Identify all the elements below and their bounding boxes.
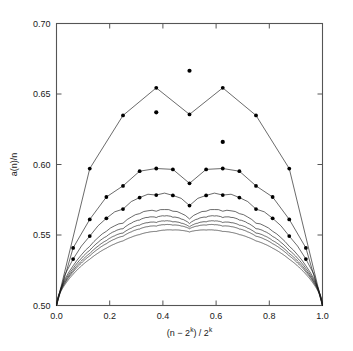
data-point <box>221 86 225 90</box>
data-point <box>287 217 291 221</box>
data-point <box>104 216 108 220</box>
data-point-right-secondary-peak <box>221 140 225 144</box>
y-tick-label: 0.60 <box>33 160 51 170</box>
data-point <box>287 234 291 238</box>
data-point <box>171 194 175 198</box>
data-point-global-maximum <box>187 69 191 73</box>
data-point <box>188 113 192 117</box>
data-point <box>71 257 75 261</box>
x-tick-label: 0.6 <box>210 311 223 321</box>
data-point <box>88 234 92 238</box>
chart-background <box>0 0 353 351</box>
chart-root: 0.00.20.40.60.81.00.500.550.600.650.70 (… <box>0 0 353 351</box>
x-tick-label: 0.2 <box>103 311 116 321</box>
data-point <box>138 196 142 200</box>
y-axis-title: a(n)/n <box>9 153 19 177</box>
x-tick-label: 0.8 <box>263 311 276 321</box>
data-point <box>88 217 92 221</box>
data-point <box>171 167 175 171</box>
data-point <box>104 195 108 199</box>
data-point <box>237 169 241 173</box>
data-point <box>254 184 258 188</box>
data-point <box>121 114 125 118</box>
data-point <box>221 193 225 197</box>
fractal-line-chart: 0.00.20.40.60.81.00.500.550.600.650.70 (… <box>0 0 353 351</box>
x-tick-label: 1.0 <box>316 311 329 321</box>
data-point <box>254 114 258 118</box>
data-point <box>88 167 92 171</box>
x-tick-label: 0.4 <box>157 311 170 321</box>
data-point <box>188 204 192 208</box>
data-point <box>271 195 275 199</box>
data-point <box>304 246 308 250</box>
data-point <box>271 216 275 220</box>
y-tick-label: 0.55 <box>33 230 51 240</box>
data-point <box>204 167 208 171</box>
data-point <box>121 184 125 188</box>
data-point <box>188 181 192 185</box>
data-point <box>287 167 291 171</box>
data-point-left-secondary-peak <box>154 110 158 114</box>
data-point <box>121 207 125 211</box>
data-point <box>254 207 258 211</box>
y-tick-label: 0.70 <box>33 19 51 29</box>
y-tick-label: 0.65 <box>33 89 51 99</box>
data-point <box>71 246 75 250</box>
x-tick-label: 0.0 <box>50 311 63 321</box>
data-point <box>154 193 158 197</box>
data-point <box>154 167 158 171</box>
data-point <box>138 169 142 173</box>
data-point <box>154 86 158 90</box>
data-point <box>237 196 241 200</box>
x-axis-title: (n − 2k) / 2k <box>167 326 213 337</box>
data-point <box>304 257 308 261</box>
data-point <box>204 194 208 198</box>
data-point <box>221 167 225 171</box>
y-tick-label: 0.50 <box>33 301 51 311</box>
